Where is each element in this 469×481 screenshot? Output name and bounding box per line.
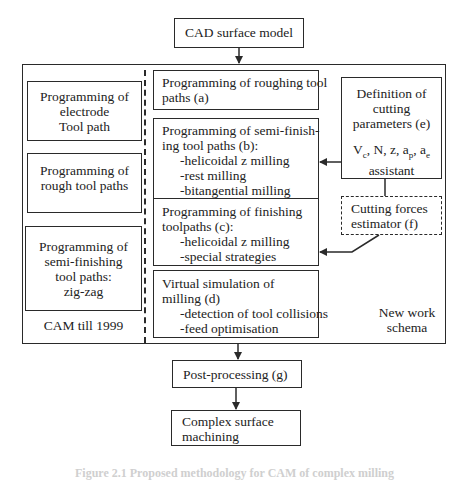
box-line: Programming of xyxy=(26,239,141,254)
step-d-simulation-box: Virtual simulation of milling (d) -detec… xyxy=(153,270,319,338)
box-line: zig-zag xyxy=(26,284,141,299)
old-rough-toolpaths-box: Programming of rough tool paths xyxy=(27,153,142,213)
box-line: Programming of finishing xyxy=(162,204,302,219)
box-line: paths (a) xyxy=(162,90,327,105)
step-a-roughing-box: Programming of roughing tool paths (a) xyxy=(153,70,319,110)
bullet-item: -helicoidal z milling xyxy=(162,234,302,249)
cad-surface-model-label: CAD surface model xyxy=(175,25,303,40)
box-line: electrode xyxy=(28,104,141,119)
box-line: rough tool paths xyxy=(28,178,141,193)
box-line: Programming of semi-finish- xyxy=(162,123,319,138)
box-line: machining xyxy=(182,429,274,444)
schema-divider xyxy=(144,70,146,343)
box-line: Programming of xyxy=(28,163,141,178)
box-line: semi-finishing xyxy=(26,254,141,269)
box-line: toolpaths (c): xyxy=(162,219,302,234)
bullet-item: -special strategies xyxy=(162,249,302,264)
box-line: milling (d) xyxy=(162,291,328,306)
old-semi-finishing-box: Programming of semi-finishing tool paths… xyxy=(25,226,142,311)
bullet-item: -feed optimisation xyxy=(162,321,328,336)
box-line: Complex surface xyxy=(182,414,274,429)
step-e-cutting-parameters-box: Definition of cutting parameters (e) Vc,… xyxy=(341,77,442,179)
box-line: ing tool paths (b): xyxy=(162,138,319,153)
cad-surface-model-node: CAD surface model xyxy=(174,18,304,48)
post-processing-label: Post-processing (g) xyxy=(183,367,288,382)
box-line: cutting xyxy=(342,101,441,116)
assistant-label: assistant xyxy=(342,163,441,178)
old-schema-label: CAM till 1999 xyxy=(25,318,142,333)
box-line: Cutting forces xyxy=(351,201,428,216)
complex-surface-machining-node: Complex surface machining xyxy=(171,410,301,446)
box-line: Programming of roughing tool xyxy=(162,75,327,90)
figure-caption: Figure 2.1 Proposed methodology for CAM … xyxy=(0,466,469,481)
step-f-cutting-forces-box: Cutting forces estimator (f) xyxy=(341,196,442,235)
step-c-finishing-box: Programming of finishing toolpaths (c): … xyxy=(153,198,319,266)
bullet-item: -bitangential milling xyxy=(162,183,319,198)
step-b-semi-finishing-box: Programming of semi-finish- ing tool pat… xyxy=(153,118,319,199)
box-line: Definition of xyxy=(342,86,441,101)
post-processing-node: Post-processing (g) xyxy=(172,360,302,388)
box-line: parameters (e) xyxy=(342,116,441,131)
box-line: Virtual simulation of xyxy=(162,276,328,291)
bullet-item: -rest milling xyxy=(162,168,319,183)
box-line: estimator (f) xyxy=(351,216,428,231)
parameter-symbols: Vc, N, z, ap, ae xyxy=(342,142,441,163)
old-electrode-toolpath-box: Programming of electrode Tool path xyxy=(27,81,142,141)
box-line: Tool path xyxy=(28,119,141,134)
box-line: tool paths: xyxy=(26,269,141,284)
new-schema-label: New work schema xyxy=(372,305,442,335)
bullet-item: -helicoidal z milling xyxy=(162,153,319,168)
box-line: Programming of xyxy=(28,89,141,104)
bullet-item: -detection of tool collisions xyxy=(162,306,328,321)
